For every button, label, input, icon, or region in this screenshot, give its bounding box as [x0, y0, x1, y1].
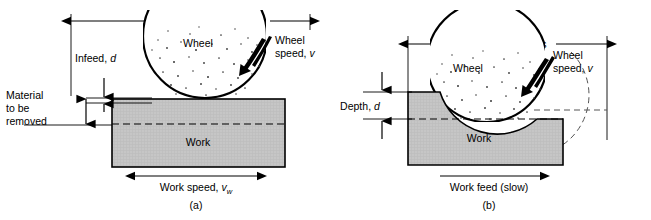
panel-a-infeed-label: Infeed,d: [75, 52, 117, 64]
panel-b-work-label: Work: [467, 132, 492, 144]
panel-b-wheel-speed-label-1: Wheel: [553, 49, 583, 61]
panel-a-work-label: Work: [186, 136, 211, 148]
panel-a-material-label-1: Material: [6, 89, 43, 101]
panel-a-work-speed-label: Work speed,vw: [160, 181, 233, 196]
panel-a-material-label-2: to be: [6, 102, 30, 114]
panel-b-wheel-label: Wheel: [453, 62, 483, 74]
grinding-figure: Typical length of stroke: [0, 0, 651, 220]
panel-b-caption: (b): [483, 199, 496, 211]
panel-a-work-block: [112, 99, 285, 167]
wheel-outline: [143, 0, 267, 98]
panel-b-wheel-speed-label-2: speed,v: [553, 62, 594, 74]
panel-a-wheel-group: [143, 0, 267, 102]
panel-b: Length of pass: [340, 2, 607, 211]
panel-a-caption: (a): [190, 199, 203, 211]
panel-a: Typical length of stroke: [6, 0, 316, 211]
panel-a-wheel-speed-label-2: speed,v: [275, 47, 316, 59]
panel-b-work-feed-label: Work feed (slow): [450, 181, 529, 193]
panel-a-wheel-label: Wheel: [183, 37, 213, 49]
panel-b-depth-label: Depth,d: [340, 100, 381, 112]
diagram-canvas: Typical length of stroke: [0, 0, 651, 220]
panel-a-material-label-3: removed: [6, 115, 47, 127]
panel-a-wheel-speed-label-1: Wheel: [275, 34, 305, 46]
